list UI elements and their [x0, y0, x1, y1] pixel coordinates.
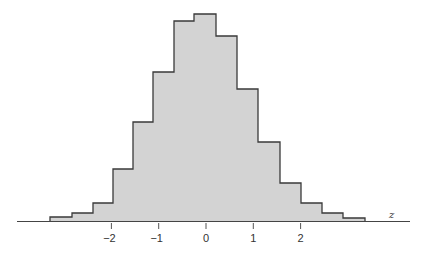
- x-tick-label: −1: [150, 232, 163, 244]
- histogram-bar: [113, 169, 133, 221]
- histogram-bar: [216, 36, 237, 221]
- histogram-bar: [194, 14, 216, 221]
- x-axis-label: z: [388, 209, 395, 220]
- histogram-bar: [301, 203, 322, 221]
- x-axis-ticks: −2−1012: [103, 223, 304, 244]
- histogram-bar: [280, 183, 301, 221]
- x-tick-label: −2: [103, 232, 116, 244]
- x-tick-label: 2: [298, 232, 304, 244]
- histogram-bar: [174, 21, 194, 221]
- histogram-bars: [50, 14, 365, 221]
- x-tick-label: 0: [203, 232, 209, 244]
- histogram-bar: [258, 142, 280, 221]
- histogram-bar: [322, 213, 343, 221]
- histogram-bar: [93, 203, 113, 221]
- histogram-bar: [133, 122, 153, 221]
- histogram-bar: [237, 89, 258, 221]
- x-tick-label: 1: [250, 232, 256, 244]
- histogram-chart: −2−1012 z: [0, 0, 424, 255]
- histogram-bar: [72, 213, 93, 221]
- histogram-bar: [153, 72, 174, 221]
